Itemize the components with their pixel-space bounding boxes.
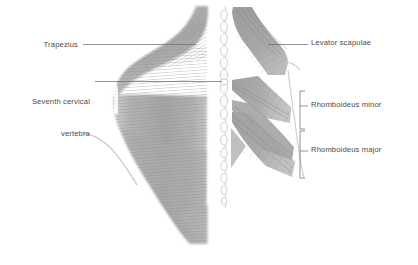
vertebral-column xyxy=(220,6,228,208)
label-seventh-cervical-vertebra: Seventh cervical vertebra xyxy=(0,76,90,160)
label-seventh-cervical-vertebra-line2: vertebra xyxy=(0,129,90,140)
seventh-cervical-vertebra xyxy=(220,79,228,85)
label-levator-scapulae: Levator scapulae xyxy=(311,38,416,49)
trapezius-striations xyxy=(100,45,220,253)
anatomy-figure: Trapezius Seventh cervical vertebra Leva… xyxy=(0,0,418,265)
label-rhomboideus-major: Rhomboideus major xyxy=(311,145,416,156)
trapezius-highlight xyxy=(112,82,117,114)
label-seventh-cervical-vertebra-line1: Seventh cervical xyxy=(0,97,90,108)
levator-scapulae-striations xyxy=(225,0,305,90)
label-rhomboideus-minor: Rhomboideus minor xyxy=(311,100,416,111)
label-trapezius: Trapezius xyxy=(0,40,78,51)
bracket-rhomboideus-minor xyxy=(300,91,305,129)
